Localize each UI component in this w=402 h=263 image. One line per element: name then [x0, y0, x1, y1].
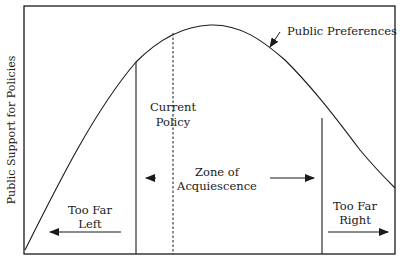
- too-far-right-line2: Right: [339, 213, 371, 227]
- zone-of-acquiescence-diagram: Public Support for Policies Public Prefe…: [0, 0, 402, 263]
- current-policy-label-line1: Current: [150, 100, 196, 114]
- too-far-left-line2: Left: [78, 217, 102, 231]
- diagram-canvas: Public Support for Policies Public Prefe…: [0, 0, 402, 263]
- zone-label-line1: Zone of: [195, 165, 240, 179]
- zone-label-line2: Acquiescence: [176, 179, 257, 193]
- y-axis-label: Public Support for Policies: [5, 55, 18, 204]
- current-policy-label-line2: Policy: [156, 115, 191, 129]
- public-preferences-label: Public Preferences: [287, 24, 397, 38]
- public-preferences-arrow-icon: [270, 32, 280, 47]
- too-far-right-line1: Too Far: [333, 199, 377, 213]
- too-far-left-line1: Too Far: [68, 203, 112, 217]
